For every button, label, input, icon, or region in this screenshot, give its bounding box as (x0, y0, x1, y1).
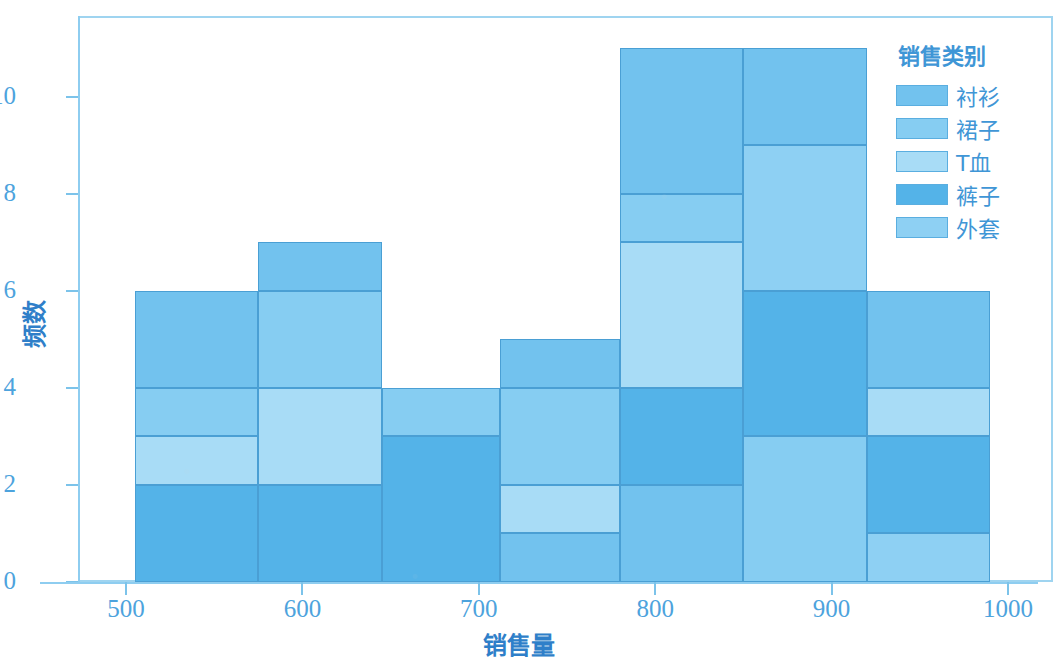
bar-segment (135, 436, 258, 485)
bar-segment (382, 436, 500, 582)
histogram-bar (620, 48, 743, 582)
y-tick-mark (66, 484, 78, 486)
bar-segment (258, 485, 381, 582)
y-axis-line (78, 16, 80, 582)
x-tick-label: 900 (787, 595, 877, 624)
x-tick-label: 600 (257, 595, 347, 624)
legend-item-label: 衬衫 (956, 79, 1000, 111)
histogram-bar (135, 291, 258, 582)
x-tick-mark (125, 582, 127, 595)
histogram-bar (500, 339, 620, 582)
bar-segment (867, 291, 990, 388)
bar-segment (135, 291, 258, 388)
bar-segment (258, 388, 381, 485)
histogram-bar (867, 291, 990, 582)
x-tick-mark (654, 582, 656, 595)
x-tick-label: 1000 (963, 595, 1053, 624)
y-axis-title: 频数 (15, 264, 50, 384)
bar-segment (867, 533, 990, 582)
legend-swatch-icon (896, 151, 948, 172)
bar-segment (620, 242, 743, 388)
legend-item[interactable]: 外套 (896, 214, 1038, 240)
legend: 销售类别 衬衫裙子T血裤子外套 (896, 38, 1038, 247)
x-tick-mark (1007, 582, 1009, 595)
y-tick-mark (66, 290, 78, 292)
bar-segment (743, 291, 866, 437)
histogram-bar (258, 242, 381, 582)
bar-segment (867, 436, 990, 533)
bar-segment (500, 533, 620, 582)
legend-item-label: 外套 (956, 211, 1000, 243)
x-axis-title: 销售量 (0, 626, 1038, 661)
x-axis-line (40, 582, 1038, 584)
y-tick-label: 2 (0, 471, 16, 496)
legend-swatch-icon (896, 118, 948, 139)
bar-segment (620, 48, 743, 194)
legend-items: 衬衫裙子T血裤子外套 (896, 82, 1038, 240)
legend-swatch-icon (896, 184, 948, 205)
legend-item[interactable]: 衬衫 (896, 82, 1038, 108)
bar-segment (620, 194, 743, 243)
x-tick-mark (478, 582, 480, 595)
y-tick-label: 8 (0, 180, 16, 205)
y-tick-label: 10 (0, 83, 16, 108)
x-tick-label: 700 (434, 595, 524, 624)
legend-item[interactable]: 裙子 (896, 115, 1038, 141)
bar-segment (867, 388, 990, 437)
x-tick-mark (831, 582, 833, 595)
legend-title: 销售类别 (898, 38, 1038, 70)
legend-item-label: 裤子 (956, 178, 1000, 210)
bar-segment (258, 242, 381, 291)
bar-segment (743, 436, 866, 582)
legend-item[interactable]: 裤子 (896, 181, 1038, 207)
legend-item-label: 裙子 (956, 112, 1000, 144)
x-tick-mark (301, 582, 303, 595)
bar-segment (382, 388, 500, 437)
x-tick-label: 500 (81, 595, 171, 624)
bar-segment (500, 485, 620, 534)
bar-segment (135, 485, 258, 582)
legend-item-label: T血 (956, 145, 991, 177)
bar-segment (620, 388, 743, 485)
bar-segment (743, 48, 866, 145)
legend-swatch-icon (896, 217, 948, 238)
histogram-bar (743, 48, 866, 582)
y-tick-label: 0 (0, 568, 16, 593)
histogram-bar (382, 388, 500, 582)
x-tick-label: 800 (610, 595, 700, 624)
y-tick-mark (66, 96, 78, 98)
y-tick-mark (66, 387, 78, 389)
bar-segment (743, 145, 866, 291)
bar-segment (500, 339, 620, 388)
bar-segment (500, 388, 620, 485)
bar-segment (258, 291, 381, 388)
bar-segment (135, 388, 258, 437)
legend-item[interactable]: T血 (896, 148, 1038, 174)
y-tick-mark (66, 193, 78, 195)
legend-swatch-icon (896, 85, 948, 106)
bar-segment (620, 485, 743, 582)
